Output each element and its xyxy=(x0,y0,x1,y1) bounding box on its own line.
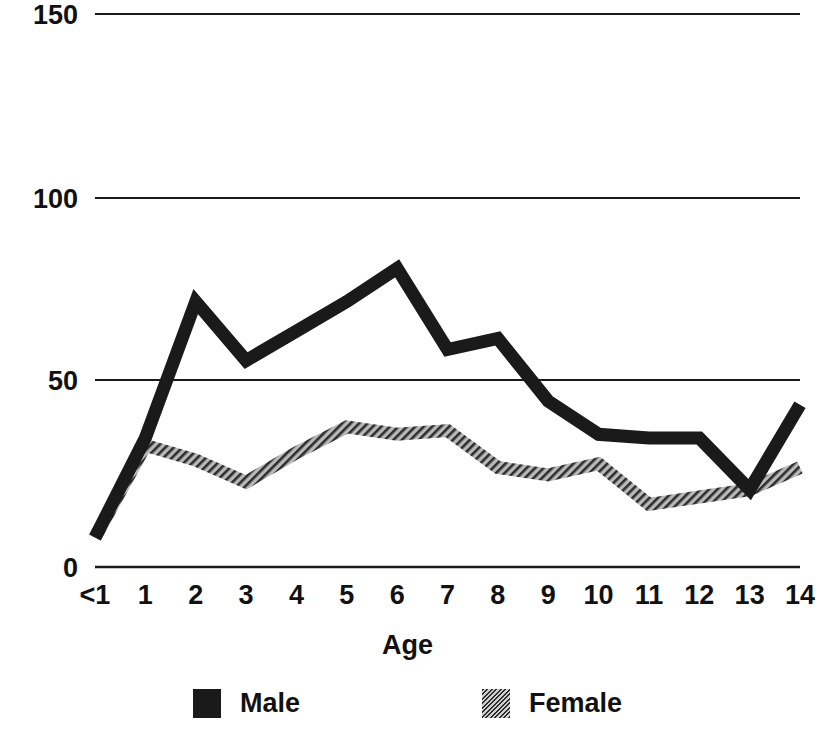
legend-swatch-female-icon xyxy=(482,689,510,718)
legend-item-female: Female xyxy=(482,688,622,719)
legend-swatch-male-icon xyxy=(193,689,221,718)
legend-label-male: Male xyxy=(240,688,300,719)
x-axis-title: Age xyxy=(0,630,815,661)
chart-legend: Male Female xyxy=(0,688,815,719)
gridlines xyxy=(95,14,800,567)
x-axis-tick-14: 14 xyxy=(770,580,820,611)
legend-item-male: Male xyxy=(193,688,300,719)
legend-label-female: Female xyxy=(529,688,622,719)
